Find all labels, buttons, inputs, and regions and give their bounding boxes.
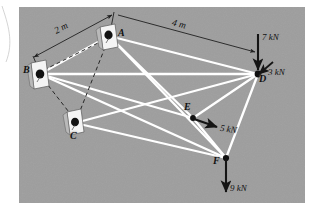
force-label-9kN: 9 kN	[230, 183, 247, 193]
node-label-B: B	[23, 64, 30, 75]
figure-container: A B C D E F 7 kN 3 kN 5 kN 9 kN 2 m 4 m	[0, 0, 310, 207]
node-label-F: F	[213, 155, 220, 166]
node-label-E: E	[184, 101, 191, 112]
force-label-3kN: 3 kN	[268, 67, 285, 77]
support-plate-A	[96, 24, 118, 50]
node-label-D: D	[259, 73, 266, 84]
support-plate-B	[27, 60, 49, 89]
node-label-C: C	[70, 130, 77, 141]
node-label-A: A	[118, 27, 125, 38]
force-label-7kN: 7 kN	[262, 32, 279, 42]
